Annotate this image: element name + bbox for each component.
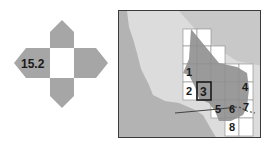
arrow-up-icon[interactable] [50, 20, 74, 48]
tile-1[interactable]: 1 [186, 66, 192, 78]
navigator-center [50, 48, 74, 78]
tile-6[interactable]: 6 [229, 103, 235, 115]
tile-7[interactable]: 7 [243, 101, 249, 113]
arrow-right-icon[interactable] [74, 48, 108, 78]
tile-2[interactable]: 2 [186, 85, 192, 97]
tile-5[interactable]: 5 [215, 103, 221, 115]
tile-4[interactable]: 4 [242, 81, 249, 93]
tile-8[interactable]: 8 [229, 121, 235, 133]
page-navigator: 15.2 [14, 20, 110, 112]
tile-3[interactable]: 3 [200, 85, 207, 99]
index-map: 1 2 3 4 5 6 7 8 [118, 10, 261, 138]
page-number-label: 15.2 [21, 57, 45, 71]
arrow-down-icon[interactable] [50, 78, 74, 108]
